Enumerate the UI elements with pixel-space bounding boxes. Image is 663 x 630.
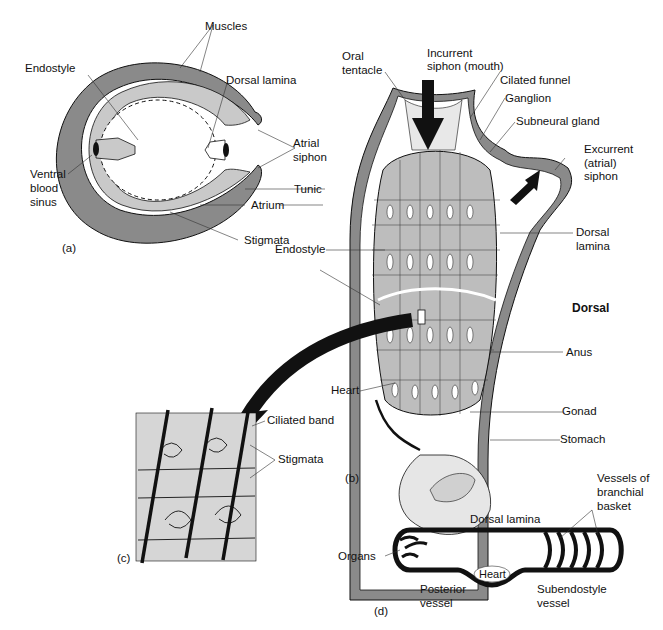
panel-tag-a: (a) <box>62 242 76 255</box>
panel-tag-b: (b) <box>345 472 359 485</box>
label-stomach: Stomach <box>560 433 605 446</box>
label-subendostyle-vessel-line2: vessel <box>537 597 570 610</box>
panel-tag-c: (c) <box>117 552 130 565</box>
label-ventral-blood-sinus-line3: sinus <box>30 196 57 209</box>
label-organs: Organs <box>338 550 376 563</box>
label-atrial-siphon-line1: Atrial <box>293 137 319 150</box>
label-tunic: Tunic <box>294 183 322 196</box>
label-muscles: Muscles <box>205 20 247 33</box>
label-subendostyle-vessel-line1: Subendostyle <box>537 583 607 596</box>
label-excurrent-siphon-line1: Excurrent <box>584 143 633 156</box>
label-excurrent-siphon-line3: siphon <box>584 170 618 183</box>
label-dorsal-lamina-b-line1: Dorsal <box>576 226 609 239</box>
label-excurrent-siphon-line2: (atrial) <box>584 157 617 170</box>
label-vessels-line1: Vessels of <box>597 472 649 485</box>
label-endostyle-a: Endostyle <box>25 62 76 75</box>
label-dorsal-lamina-b-line2: lamina <box>576 240 610 253</box>
label-gonad: Gonad <box>562 405 597 418</box>
label-heart-b: Heart <box>331 384 359 397</box>
diagram-canvas <box>0 0 663 630</box>
label-ventral-blood-sinus-line2: blood <box>30 182 58 195</box>
label-heart-d: Heart <box>479 568 506 581</box>
label-vessels-line2: branchial <box>597 486 644 499</box>
label-stigmata-c: Stigmata <box>278 453 323 466</box>
panel-a-cross-section <box>56 25 325 243</box>
label-posterior-vessel-line1: Posterior <box>420 583 466 596</box>
label-atrium: Atrium <box>251 199 284 212</box>
label-anus: Anus <box>566 346 592 359</box>
panel-tag-d: (d) <box>374 605 388 618</box>
label-atrial-siphon-line2: siphon <box>293 151 327 164</box>
label-dorsal-lamina-d: Dorsal lamina <box>470 513 540 526</box>
label-subneural-gland: Subneural gland <box>516 115 600 128</box>
label-ciliated-band: Ciliated band <box>267 414 334 427</box>
label-oral-tentacle-line2: tentacle <box>342 64 382 77</box>
label-dorsal-lamina-a: Dorsal lamina <box>226 74 296 87</box>
label-endostyle-b: Endostyle <box>275 243 326 256</box>
label-vessels-line3: basket <box>597 500 631 513</box>
label-ganglion: Ganglion <box>505 92 551 105</box>
label-oral-tentacle-line1: Oral <box>342 50 364 63</box>
label-ciliated-funnel: Cilated funnel <box>500 74 570 87</box>
label-posterior-vessel-line2: vessel <box>420 597 453 610</box>
label-ventral-blood-sinus-line1: Ventral <box>30 168 66 181</box>
label-incurrent-siphon-line1: Incurrent <box>427 47 472 60</box>
label-dorsal-orientation: Dorsal <box>572 302 609 315</box>
panel-c-basket-detail <box>136 408 275 563</box>
label-incurrent-siphon-line2: siphon (mouth) <box>427 60 504 73</box>
